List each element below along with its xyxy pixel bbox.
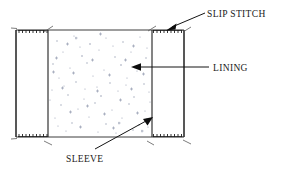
bottom-left-stitch-row [18,134,48,137]
slip-stitch-leader-line [172,13,205,27]
sleeve-label: SLEEVE [66,154,103,164]
lining-panel-fill [48,30,152,137]
tick-bottom-left-outer [11,139,17,140]
tick-bottom-right-outer [183,140,191,144]
lining-label: LINING [213,63,248,73]
top-left-stitch-row [18,30,48,33]
bottom-right-stitch-row [153,134,183,137]
top-right-stitch-row [153,30,183,33]
sleeve-lining-diagram: SLIP STITCH LINING SLEEVE [0,0,288,173]
slip-stitch-arrowhead-icon [166,24,177,31]
diagram-canvas: SLIP STITCH LINING SLEEVE [0,0,288,173]
lining-panel [48,30,152,137]
tick-top-left-outer [11,28,17,29]
annotation-slip-stitch: SLIP STITCH [166,9,266,31]
slip-stitch-label: SLIP STITCH [207,9,266,19]
tick-bottom-seam-left [44,141,52,145]
tick-bottom-seam-right [147,141,154,145]
